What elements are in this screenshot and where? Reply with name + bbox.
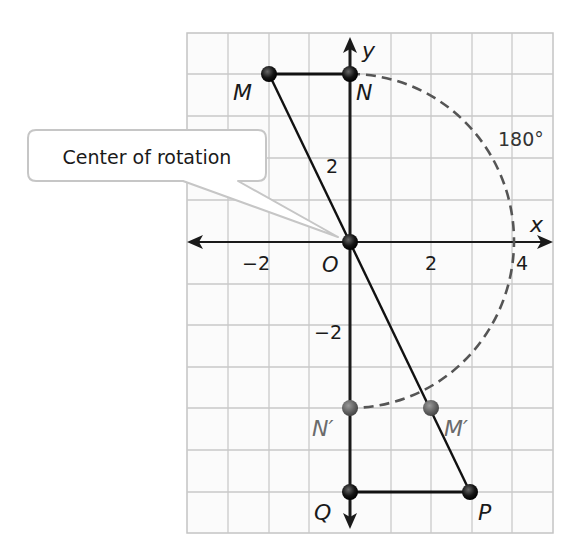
label-M-prime: M′ xyxy=(444,416,468,441)
origin-label: O xyxy=(322,253,339,277)
x-tick-2: 2 xyxy=(425,252,437,274)
x-tick-neg2: −2 xyxy=(242,252,270,274)
label-Q: Q xyxy=(314,500,331,525)
angle-label: 180° xyxy=(498,128,544,150)
point-P xyxy=(462,484,478,500)
x-tick-4: 4 xyxy=(516,252,528,274)
y-tick-neg2: −2 xyxy=(314,321,342,343)
label-N-prime: N′ xyxy=(312,416,333,441)
label-M: M xyxy=(233,80,252,105)
point-O xyxy=(342,234,358,250)
point-N-prime xyxy=(342,400,358,416)
point-Q xyxy=(342,484,358,500)
point-M xyxy=(261,66,277,82)
x-axis-label: x xyxy=(529,212,544,237)
rotation-diagram: Center of rotation x y O −2 2 4 2 xyxy=(0,0,584,556)
y-tick-2: 2 xyxy=(326,155,338,177)
callout-text: Center of rotation xyxy=(63,146,232,168)
y-axis-label: y xyxy=(361,38,376,63)
label-N: N xyxy=(356,80,372,105)
label-P: P xyxy=(478,500,492,525)
point-M-prime xyxy=(423,400,439,416)
